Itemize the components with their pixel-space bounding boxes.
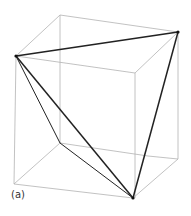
tetrahedron-edges	[16, 32, 178, 198]
figure-label: (a)	[11, 189, 25, 200]
cube-tetrahedron-diagram	[0, 0, 191, 216]
